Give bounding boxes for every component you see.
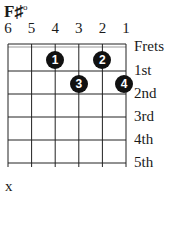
fret-label-5: 5th xyxy=(134,154,153,171)
finger-dot: 3 xyxy=(70,75,88,93)
fret-label-3: 3rd xyxy=(134,108,154,125)
fret-label-1: 1st xyxy=(134,62,152,79)
finger-dot: 4 xyxy=(115,75,133,93)
frets-label: Frets xyxy=(134,38,164,55)
muted-string-marker: x xyxy=(5,178,13,195)
fret-label-4: 4th xyxy=(134,131,153,148)
fret-label-2: 2nd xyxy=(134,85,157,102)
